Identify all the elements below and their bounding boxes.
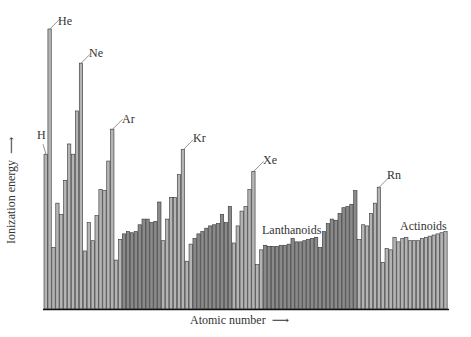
bar-z77 — [342, 208, 345, 309]
bar-z102 — [440, 233, 443, 309]
bar-z98 — [424, 237, 427, 309]
label-kr: Kr — [193, 131, 206, 146]
bar-z82 — [362, 225, 365, 309]
bar-z103 — [444, 232, 447, 309]
bar-z2 — [48, 29, 51, 309]
label-rn: Rn — [387, 168, 401, 183]
bar-z23 — [130, 233, 133, 309]
bar-z6 — [64, 180, 67, 309]
bar-z41 — [201, 232, 204, 309]
bar-z34 — [173, 197, 176, 309]
bar-z58 — [267, 246, 270, 309]
bar-z15 — [99, 189, 102, 309]
bar-z72 — [322, 232, 325, 309]
label-lanthanoids: Lanthanoids — [262, 223, 321, 238]
bar-z14 — [95, 216, 98, 309]
bar-z17 — [107, 161, 110, 309]
bar-z101 — [436, 234, 439, 309]
bar-z89 — [389, 250, 392, 309]
bar-z69 — [311, 238, 314, 309]
bar-z12 — [87, 223, 90, 310]
bar-z5 — [60, 215, 63, 309]
y-axis-arrow-icon: ⟶ — [4, 137, 18, 157]
bar-z76 — [338, 213, 341, 309]
bar-z47 — [224, 223, 227, 310]
bar-z25 — [138, 225, 141, 309]
bar-z71 — [318, 248, 321, 309]
bar-z42 — [205, 228, 208, 309]
bar-z39 — [193, 238, 196, 309]
bar-z37 — [185, 261, 188, 309]
bar-z20 — [118, 240, 121, 309]
bar-z9 — [75, 111, 78, 309]
bar-z22 — [126, 232, 129, 309]
bar-z46 — [220, 215, 223, 309]
bar-z99 — [428, 236, 431, 309]
label-xe: Xe — [263, 153, 277, 168]
bar-z16 — [103, 191, 106, 309]
bar-z35 — [177, 175, 180, 309]
bar-z13 — [91, 241, 94, 309]
bar-z49 — [232, 243, 235, 309]
bar-z54 — [252, 171, 255, 309]
bar-z79 — [350, 204, 353, 309]
bar-z40 — [197, 234, 200, 309]
bar-z60 — [275, 246, 278, 309]
bar-z1 — [44, 154, 47, 309]
bar-z45 — [216, 224, 219, 309]
bar-z96 — [416, 241, 419, 309]
bar-z44 — [213, 225, 216, 309]
bar-z28 — [150, 223, 153, 310]
bar-z87 — [381, 262, 384, 309]
bar-z78 — [346, 207, 349, 309]
bar-z38 — [189, 244, 192, 309]
y-axis-label: Ionization energy ⟶ — [4, 137, 19, 244]
y-axis-label-text: Ionization energy — [4, 160, 18, 244]
bar-z74 — [330, 219, 333, 309]
bar-z56 — [260, 250, 263, 309]
bar-z11 — [83, 251, 86, 309]
bar-z65 — [295, 242, 298, 309]
bar-z36 — [181, 150, 184, 309]
bar-z52 — [244, 207, 247, 309]
leader-line-z1 — [43, 144, 46, 154]
bar-z10 — [79, 63, 82, 309]
bar-z59 — [271, 246, 274, 309]
bar-z27 — [146, 219, 149, 309]
x-axis-arrow-icon: ⟶ — [269, 313, 289, 327]
bar-z100 — [432, 235, 435, 309]
label-he: He — [58, 14, 72, 29]
bar-z95 — [412, 241, 415, 309]
bar-z84 — [369, 213, 372, 309]
bar-z83 — [365, 226, 368, 309]
bar-z30 — [158, 202, 161, 309]
bar-z32 — [166, 219, 169, 309]
bar-z53 — [248, 189, 251, 309]
bar-z26 — [142, 219, 145, 309]
bar-z50 — [236, 226, 239, 309]
label-actinoids: Actinoids — [400, 219, 447, 234]
bar-z19 — [115, 260, 118, 309]
bar-z33 — [169, 197, 172, 309]
bar-z21 — [122, 234, 125, 309]
x-axis-label: Atomic number ⟶ — [190, 313, 289, 328]
bar-z4 — [56, 203, 59, 309]
leader-line-z36 — [183, 140, 193, 150]
bar-z94 — [409, 241, 412, 309]
bar-z48 — [228, 207, 231, 309]
bar-z24 — [134, 232, 137, 309]
bar-z86 — [377, 187, 380, 309]
label-ar: Ar — [122, 112, 135, 127]
bar-z97 — [420, 238, 423, 309]
bar-z80 — [354, 191, 357, 309]
bar-z85 — [373, 203, 376, 309]
bar-z81 — [358, 240, 361, 309]
bar-z88 — [385, 249, 388, 309]
bar-z3 — [52, 248, 55, 309]
label-ne: Ne — [89, 46, 103, 61]
x-axis-label-text: Atomic number — [190, 313, 266, 327]
bar-z8 — [71, 154, 74, 309]
bar-z67 — [303, 241, 306, 309]
bar-z90 — [393, 237, 396, 309]
bar-z63 — [287, 244, 290, 309]
